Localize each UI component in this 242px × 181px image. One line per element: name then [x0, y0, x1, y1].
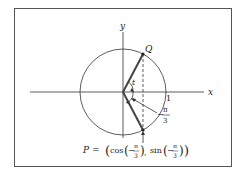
svg-text:3: 3: [163, 117, 167, 125]
svg-text:3: 3: [134, 152, 138, 159]
svg-text:π: π: [163, 106, 168, 114]
svg-text:π: π: [134, 142, 138, 149]
y-axis-label: y: [119, 21, 126, 31]
svg-text:cos: cos: [110, 146, 123, 155]
svg-text:π: π: [173, 142, 177, 149]
svg-text:,: ,: [144, 148, 147, 157]
svg-text:3: 3: [173, 152, 177, 159]
q-label: Q: [145, 44, 153, 54]
unit-circle-diagram: y x Q t 1 − π 3 P = ( cos ( − π 3 ) , si…: [0, 0, 242, 181]
tick-one-label: 1: [166, 94, 171, 103]
svg-text:): ): [179, 144, 184, 158]
svg-text:P =: P =: [82, 145, 99, 155]
svg-text:sin: sin: [150, 146, 162, 155]
x-axis-label: x: [208, 87, 213, 97]
svg-text:): ): [184, 143, 189, 158]
